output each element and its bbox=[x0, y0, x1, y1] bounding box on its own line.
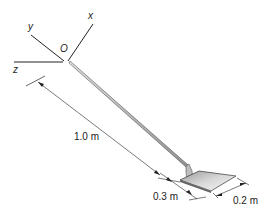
handle-length-label: 1.0 m bbox=[74, 131, 99, 142]
y-axis-label: y bbox=[27, 21, 34, 32]
x-axis bbox=[68, 24, 93, 61]
shovel-diagram: x y z O 1.0 m 0.3 m 0.2 m bbox=[0, 0, 275, 213]
coordinate-axes: x y z O bbox=[12, 10, 94, 75]
blade-length-label: 0.3 m bbox=[153, 191, 178, 202]
x-axis-label: x bbox=[87, 10, 94, 21]
z-axis-label: z bbox=[12, 64, 18, 75]
blade-width-label: 0.2 m bbox=[233, 195, 258, 206]
shovel-handle bbox=[69, 61, 193, 180]
origin-label: O bbox=[60, 43, 68, 54]
